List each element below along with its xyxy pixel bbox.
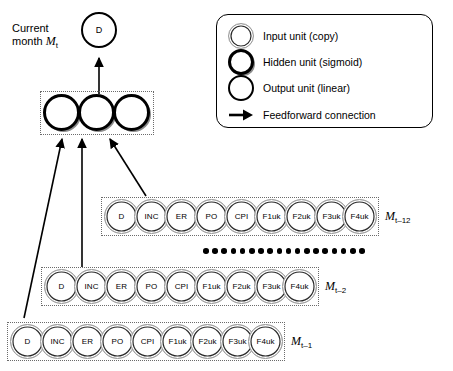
legend-item-output: Output unit (linear): [228, 75, 350, 101]
unit-label: F2uk: [292, 212, 310, 221]
unit-label: F4uk: [256, 337, 274, 346]
row-tag-t-1: Mt–1: [291, 334, 312, 350]
current-month-line1: Current: [12, 22, 49, 34]
input-unit[interactable]: F4uk: [248, 324, 283, 359]
row-tag-subscript: t–12: [395, 216, 411, 225]
unit-label: F2uk: [232, 282, 250, 291]
unit-label: F4uk: [290, 282, 308, 291]
unit-label: ER: [176, 212, 187, 221]
output-unit-icon: [228, 75, 254, 101]
output-unit-label: D: [96, 25, 103, 35]
legend-item-input: Input unit (copy): [228, 23, 338, 49]
input-unit[interactable]: F4uk: [342, 199, 377, 234]
current-month-subscript: t: [56, 41, 58, 50]
unit-label: ER: [116, 282, 127, 291]
legend-label: Feedforward connection: [263, 109, 376, 121]
input-unit-icon: [228, 23, 254, 49]
row-tag-t-12: Mt–12: [385, 209, 411, 225]
row-tag-symbol: M: [325, 279, 335, 293]
unit-label: INC: [84, 282, 98, 291]
legend-item-connection: Feedforward connection: [228, 102, 376, 128]
arrow-row-t-12-to-hidden: [110, 139, 146, 196]
hidden-unit-icon: [228, 49, 254, 75]
unit-label: F4uk: [350, 212, 368, 221]
row-tag-symbol: M: [385, 209, 395, 223]
unit-label: F3uk: [228, 337, 246, 346]
hidden-unit-2[interactable]: [78, 94, 115, 131]
unit-label: PO: [206, 212, 218, 221]
legend-label: Input unit (copy): [263, 30, 338, 42]
diagram-canvas: Current month Mt D D INC ER PO CPI F1uk …: [0, 0, 453, 371]
unit-label: PO: [146, 282, 158, 291]
current-month-label: Current month Mt: [12, 22, 58, 52]
unit-label: ER: [82, 337, 93, 346]
unit-label: F3uk: [322, 212, 340, 221]
legend-box: Input unit (copy) Hidden unit (sigmoid) …: [216, 14, 433, 128]
unit-label: F2uk: [198, 337, 216, 346]
unit-label: D: [59, 282, 65, 291]
feedforward-arrow-icon: [228, 102, 254, 128]
unit-label: CPI: [235, 212, 249, 221]
row-tag-subscript: t–2: [335, 286, 346, 295]
unit-label: INC: [50, 337, 64, 346]
legend-label: Hidden unit (sigmoid): [263, 56, 362, 68]
unit-label: F1uk: [262, 212, 280, 221]
unit-label: INC: [144, 212, 158, 221]
row-tag-symbol: M: [291, 334, 301, 348]
unit-label: F1uk: [168, 337, 186, 346]
hidden-unit-3[interactable]: [113, 94, 150, 131]
unit-label: PO: [112, 337, 124, 346]
ellipsis-dots: [203, 248, 365, 254]
unit-label: F3uk: [262, 282, 280, 291]
current-month-symbol: M: [46, 34, 56, 48]
legend-label: Output unit (linear): [263, 82, 350, 94]
unit-label: CPI: [175, 282, 189, 291]
output-unit-D[interactable]: D: [81, 12, 117, 48]
legend-item-hidden: Hidden unit (sigmoid): [228, 49, 362, 75]
unit-label: CPI: [141, 337, 155, 346]
current-month-line2: month: [12, 35, 43, 47]
hidden-unit-1[interactable]: [43, 94, 80, 131]
row-tag-t-2: Mt–2: [325, 279, 346, 295]
row-tag-subscript: t–1: [301, 341, 312, 350]
unit-label: F1uk: [202, 282, 220, 291]
unit-label: D: [119, 212, 125, 221]
unit-label: D: [25, 337, 31, 346]
input-unit[interactable]: F4uk: [282, 269, 317, 304]
